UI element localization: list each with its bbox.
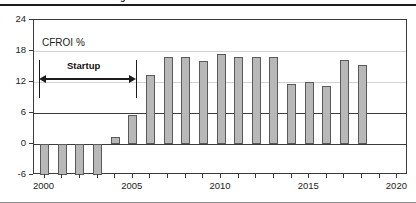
y-axis-label: 12 xyxy=(0,76,26,86)
bar xyxy=(358,65,367,144)
gridline-0 xyxy=(34,144,406,145)
x-axis-tick xyxy=(255,174,256,178)
x-axis-label: 2015 xyxy=(288,180,328,191)
x-axis-tick xyxy=(79,174,80,178)
plot-area: CFROI % Startup xyxy=(33,19,407,174)
x-axis-tick xyxy=(273,174,274,178)
startup-annotation-label: Startup xyxy=(67,60,100,71)
gridline-18 xyxy=(34,51,406,52)
x-axis-label: 2000 xyxy=(24,180,64,191)
x-axis-tick xyxy=(326,174,327,178)
y-axis-label: 18 xyxy=(0,45,26,55)
x-axis-tick xyxy=(220,174,221,178)
x-axis-tick xyxy=(61,174,62,178)
y-axis-tick xyxy=(29,19,33,20)
x-axis-tick xyxy=(396,174,397,178)
bar xyxy=(234,57,243,144)
x-axis-label: 2020 xyxy=(376,180,416,191)
x-axis-tick xyxy=(238,174,239,178)
x-axis-tick xyxy=(44,174,45,178)
startup-arrow-line xyxy=(42,78,134,80)
bar xyxy=(181,57,190,144)
x-axis-tick xyxy=(132,174,133,178)
x-axis-label: 2005 xyxy=(112,180,152,191)
bar xyxy=(199,61,208,144)
bar xyxy=(58,144,67,175)
y-axis-label: -6 xyxy=(0,169,26,179)
x-axis-tick xyxy=(185,174,186,178)
cfroi-series-label: CFROI % xyxy=(42,37,85,48)
bar xyxy=(340,60,349,144)
startup-arrow-head-left xyxy=(39,75,46,83)
bar xyxy=(217,54,226,144)
x-axis-tick xyxy=(308,174,309,178)
x-axis-label: 2010 xyxy=(200,180,240,191)
y-axis-tick xyxy=(29,50,33,51)
y-axis-tick xyxy=(29,112,33,113)
y-axis-label: 6 xyxy=(0,107,26,117)
bar xyxy=(93,144,102,175)
bar xyxy=(146,75,155,144)
x-axis-tick xyxy=(361,174,362,178)
x-axis-tick xyxy=(202,174,203,178)
clipped-title-text: g xyxy=(120,0,126,2)
x-axis-tick xyxy=(291,174,292,178)
x-axis-tick xyxy=(149,174,150,178)
bar xyxy=(128,115,137,144)
bar xyxy=(252,57,261,144)
startup-arrow-head-right xyxy=(129,75,136,83)
y-axis-tick xyxy=(29,174,33,175)
y-axis-label: 0 xyxy=(0,138,26,148)
x-axis-tick xyxy=(114,174,115,178)
bar xyxy=(111,137,120,144)
x-axis-tick xyxy=(97,174,98,178)
chart-screenshot: g CFROI % Startup -606121824 20002005201… xyxy=(0,0,416,203)
top-horizontal-rule xyxy=(0,4,416,6)
x-axis-tick xyxy=(343,174,344,178)
bar xyxy=(75,144,84,175)
bar xyxy=(40,144,49,175)
startup-bracket-right xyxy=(136,60,137,98)
bar xyxy=(287,84,296,144)
bar xyxy=(322,86,331,144)
bar xyxy=(164,57,173,144)
y-axis-tick xyxy=(29,81,33,82)
y-axis-label: 24 xyxy=(0,14,26,24)
bar xyxy=(269,57,278,144)
bottom-horizontal-rule xyxy=(0,202,416,203)
y-axis-tick xyxy=(29,143,33,144)
x-axis-tick xyxy=(379,174,380,178)
bar xyxy=(305,82,314,144)
x-axis-tick xyxy=(167,174,168,178)
